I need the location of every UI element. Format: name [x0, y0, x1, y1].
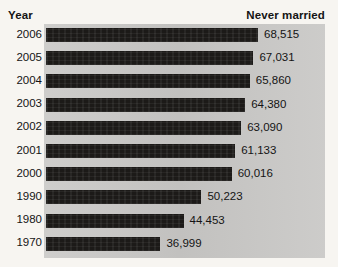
- chart-row: 200567,031: [0, 47, 338, 70]
- bar-value-label: 61,133: [241, 144, 276, 156]
- row-year-label: 1970: [0, 236, 42, 248]
- never-married-bar-chart: Year Never married 200668,515200567,0312…: [0, 0, 338, 267]
- chart-row: 200465,860: [0, 70, 338, 93]
- chart-row: 197036,999: [0, 233, 338, 256]
- bar: [46, 167, 232, 181]
- bar: [46, 214, 184, 228]
- row-year-label: 2003: [0, 97, 42, 109]
- bar: [46, 144, 235, 158]
- row-year-label: 2005: [0, 51, 42, 63]
- bar: [46, 237, 160, 251]
- chart-row: 200161,133: [0, 140, 338, 163]
- bar: [46, 98, 245, 112]
- bar: [46, 28, 258, 42]
- chart-row: 200060,016: [0, 163, 338, 186]
- chart-row: 199050,223: [0, 186, 338, 209]
- row-year-label: 2004: [0, 74, 42, 86]
- bar-value-label: 67,031: [259, 51, 294, 63]
- bar-value-label: 63,090: [247, 121, 282, 133]
- column-header-never-married: Never married: [246, 9, 325, 21]
- row-year-label: 1990: [0, 190, 42, 202]
- row-year-label: 2002: [0, 120, 42, 132]
- row-year-label: 2006: [0, 28, 42, 40]
- bar: [46, 51, 253, 65]
- column-header-year: Year: [8, 9, 33, 21]
- chart-rows: 200668,515200567,031200465,860200364,380…: [0, 24, 338, 258]
- chart-row: 198044,453: [0, 210, 338, 233]
- chart-header: Year Never married: [0, 9, 338, 24]
- chart-row: 200263,090: [0, 117, 338, 140]
- chart-row: 200364,380: [0, 94, 338, 117]
- bar-value-label: 65,860: [256, 74, 291, 86]
- bar-value-label: 64,380: [251, 98, 286, 110]
- bar-value-label: 68,515: [264, 28, 299, 40]
- bar-value-label: 50,223: [207, 190, 242, 202]
- bar-value-label: 36,999: [166, 237, 201, 249]
- row-year-label: 2001: [0, 144, 42, 156]
- bar: [46, 190, 201, 204]
- row-year-label: 1980: [0, 213, 42, 225]
- bar-value-label: 60,016: [238, 167, 273, 179]
- row-year-label: 2000: [0, 167, 42, 179]
- bar: [46, 74, 250, 88]
- bar: [46, 121, 241, 135]
- bar-value-label: 44,453: [190, 214, 225, 226]
- chart-row: 200668,515: [0, 24, 338, 47]
